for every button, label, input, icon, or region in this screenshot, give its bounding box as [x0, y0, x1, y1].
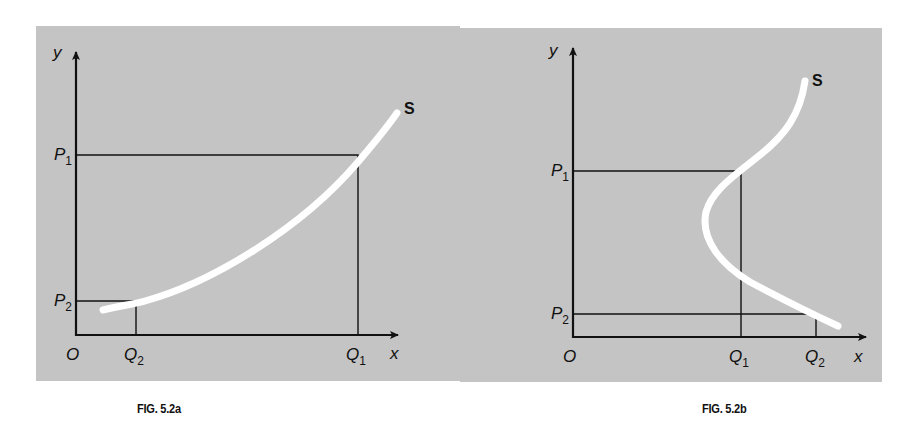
x-axis-label-a: x: [389, 344, 399, 363]
q1-label-a: Q1: [346, 345, 366, 368]
y-axis-label-a: y: [52, 43, 63, 62]
curve-label-b: S: [812, 72, 823, 89]
diagrams-canvas: y x O S P1 P2 Q2 Q1 y x O S P1 P2 Q1 Q2: [0, 0, 910, 434]
curve-label-a: S: [404, 100, 415, 117]
y-axis-label-b: y: [548, 41, 559, 60]
figure-b: y x O S P1 P2 Q1 Q2: [548, 41, 866, 370]
p2-label-a: P2: [54, 291, 72, 314]
p2-q2-guide-b: [573, 314, 816, 337]
q2-label-b: Q2: [805, 347, 825, 370]
x-axis-label-b: x: [853, 347, 863, 366]
origin-label-a: O: [66, 345, 79, 364]
figure-caption-b: FIG. 5.2b: [702, 401, 746, 416]
p1-label-b: P1: [551, 161, 569, 184]
q2-label-a: Q2: [124, 345, 144, 368]
q1-label-b: Q1: [729, 347, 749, 370]
origin-label-b: O: [563, 347, 576, 366]
supply-curve-b: [705, 81, 838, 326]
p1-label-a: P1: [54, 145, 72, 168]
supply-curve-a: [103, 113, 397, 310]
figure-a: y x O S P1 P2 Q2 Q1: [52, 43, 415, 368]
p2-label-b: P2: [551, 304, 569, 327]
figure-caption-a: FIG. 5.2a: [137, 401, 181, 416]
